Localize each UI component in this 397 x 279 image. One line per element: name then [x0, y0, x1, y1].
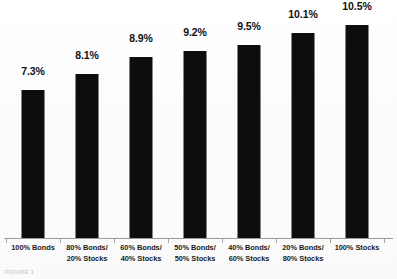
x-axis-label-line1: 40% Bonds/ [221, 243, 277, 254]
bar-group: 10.5% [330, 0, 384, 238]
x-axis-label-line2: 40% Stocks [113, 254, 169, 265]
bar-group: 9.2% [168, 0, 222, 238]
x-axis-label-line2: 80% Stocks [275, 254, 331, 265]
bar-value-label: 10.1% [288, 8, 317, 20]
x-axis-label-line1: 80% Bonds/ [59, 243, 115, 254]
bar-group: 8.1% [60, 0, 114, 238]
x-axis-label: 100% Bonds [5, 243, 61, 254]
x-axis-label-line1: 60% Bonds/ [113, 243, 169, 254]
bar-value-label: 8.1% [75, 49, 99, 61]
bar-group: 8.9% [114, 0, 168, 238]
x-axis-label: 100% Stocks [329, 243, 385, 254]
plot-area: 7.3% 8.1% 8.9% 9.2% 9.5% 10.1% 10.5% [0, 0, 397, 238]
x-axis-label-line1: 100% Bonds [5, 243, 61, 254]
bar-value-label: 7.3% [21, 65, 45, 77]
x-axis-label: 20% Bonds/ 80% Stocks [275, 243, 331, 264]
bar-value-label: 9.2% [183, 26, 207, 38]
x-axis-label-line2: 50% Stocks [167, 254, 223, 265]
bar-rect [76, 74, 99, 238]
x-axis-label-line2: 20% Stocks [59, 254, 115, 265]
x-axis-line [4, 238, 393, 239]
bar-value-label: 9.5% [237, 20, 261, 32]
x-axis-label: 80% Bonds/ 20% Stocks [59, 243, 115, 264]
x-axis-label: 40% Bonds/ 60% Stocks [221, 243, 277, 264]
x-axis-label: 50% Bonds/ 50% Stocks [167, 243, 223, 264]
x-axis-label-line1: 100% Stocks [329, 243, 385, 254]
x-axis-label: 60% Bonds/ 40% Stocks [113, 243, 169, 264]
bar-group: 10.1% [276, 0, 330, 238]
bar-group: 7.3% [6, 0, 60, 238]
bar-chart-figure: 7.3% 8.1% 8.9% 9.2% 9.5% 10.1% 10.5% [0, 0, 397, 279]
bar-rect [22, 90, 45, 238]
bar-value-label: 10.5% [342, 0, 371, 12]
x-axis-label-line1: 50% Bonds/ [167, 243, 223, 254]
bar-rect [130, 57, 153, 238]
bar-rect [346, 25, 369, 238]
bar-rect [292, 33, 315, 238]
x-axis-label-line2: 60% Stocks [221, 254, 277, 265]
x-axis-label-line1: 20% Bonds/ [275, 243, 331, 254]
bar-rect [238, 45, 261, 238]
bar-value-label: 8.9% [129, 32, 153, 44]
x-axis-category-labels: 100% Bonds 80% Bonds/ 20% Stocks 60% Bon… [0, 243, 397, 269]
bar-group: 9.5% [222, 0, 276, 238]
figure-caption: FIGURE 1 [5, 269, 165, 277]
bar-rect [184, 51, 207, 238]
